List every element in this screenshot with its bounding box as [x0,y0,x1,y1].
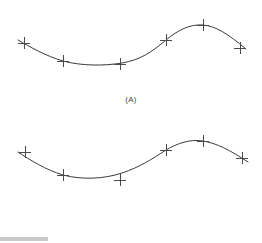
marker-a-6 [234,42,246,54]
panel-a: (A) [0,0,262,120]
marker-b-5 [197,135,209,147]
bottom-scroll-artifact [0,237,48,241]
curve-b-path [18,140,248,178]
marker-b-3-off-curve [114,174,126,186]
marker-a-4 [160,34,172,46]
marker-a-5 [197,19,209,31]
plot-b-canvas [0,120,262,230]
panel-a-caption: (A) [0,95,262,104]
marker-b-2 [57,169,69,181]
marker-a-3 [114,58,126,70]
marker-b-4 [160,144,172,156]
marker-group-b [19,135,248,186]
curve-a-path [18,25,246,65]
panel-b: (B) [0,120,262,230]
marker-b-6 [236,152,248,164]
marker-a-2 [57,55,69,67]
marker-a-1 [18,37,30,49]
figure-root: (A) [0,0,262,243]
marker-b-1 [19,146,31,158]
